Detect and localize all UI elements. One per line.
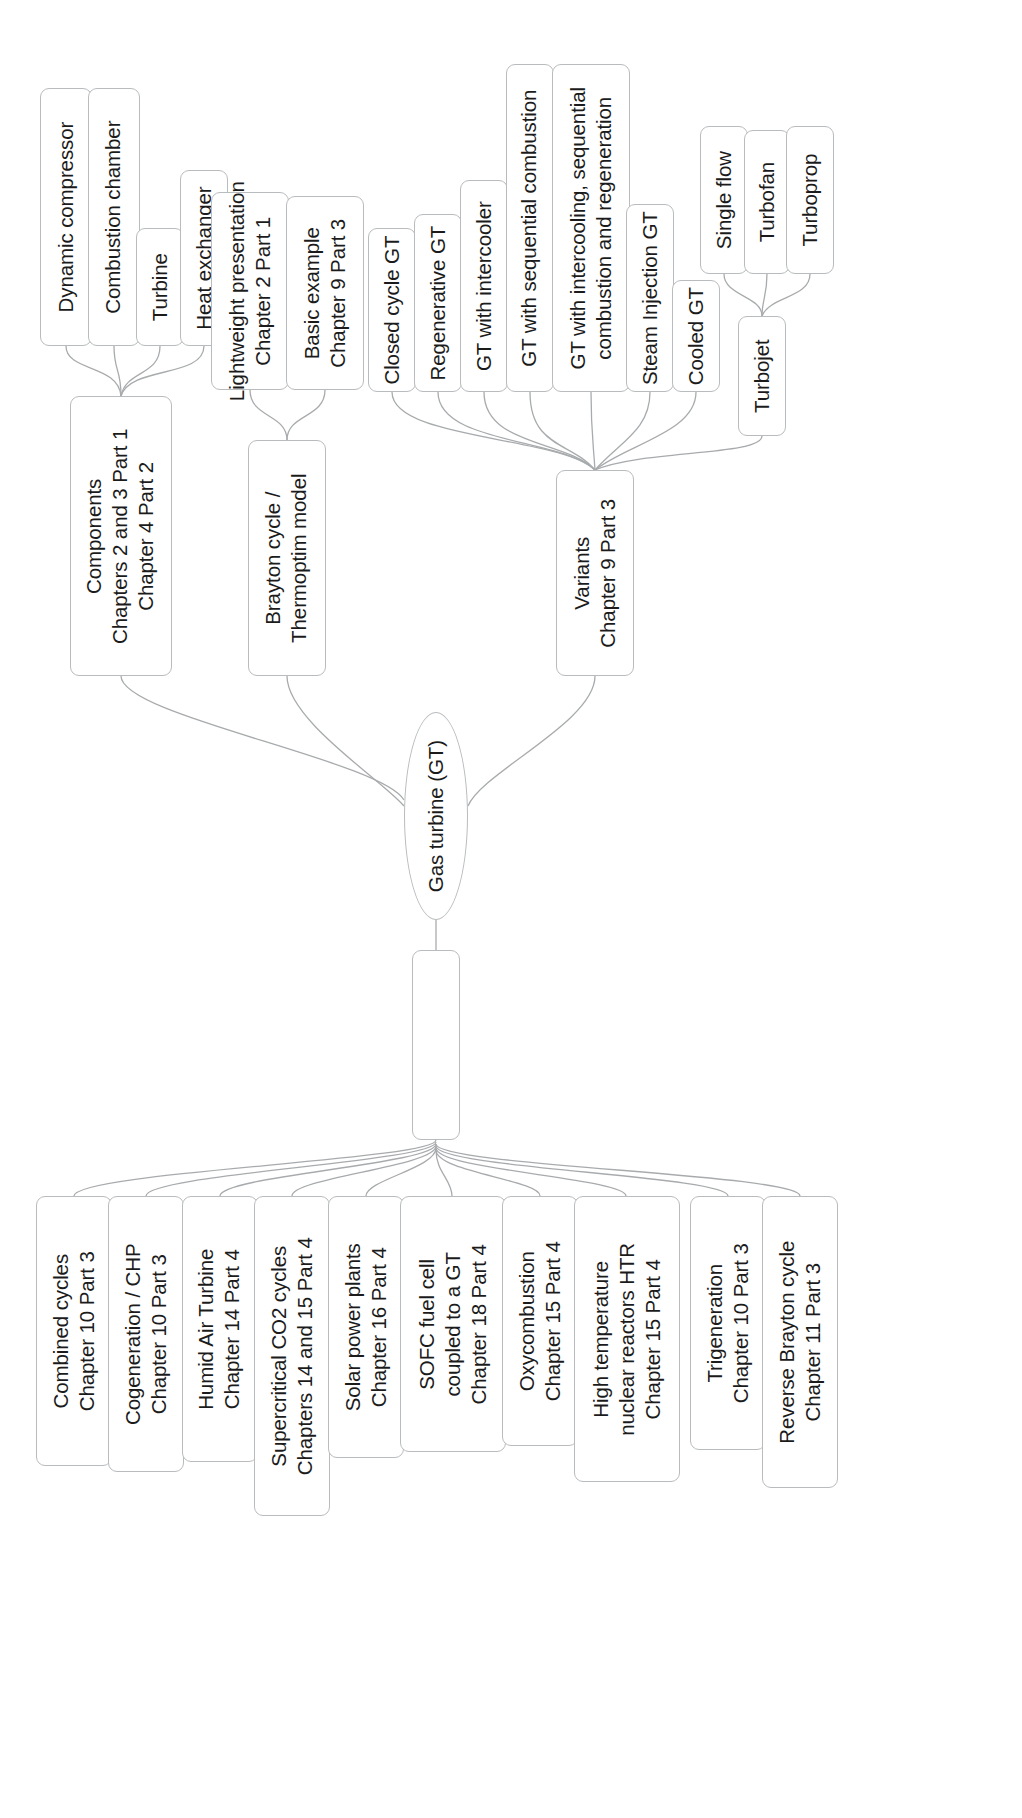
node-gt-with-intercooling-sequential-combustion-regeneration[interactable]: GT with intercooling, sequentialcombusti… <box>552 64 630 392</box>
edge-connector <box>287 676 404 806</box>
node-lightweight-presentation-label: Lightweight presentationChapter 2 Part 1 <box>224 181 276 401</box>
edge-connector <box>724 274 762 316</box>
edge-connector <box>292 1146 436 1196</box>
edge-connector <box>530 392 595 470</box>
node-sofc-fuel-cell[interactable]: SOFC fuel cellcoupled to a GTChapter 18 … <box>400 1196 506 1452</box>
node-variants-label: VariantsChapter 9 Part 3 <box>569 499 621 648</box>
node-components-label: ComponentsChapters 2 and 3 Part 1Chapter… <box>82 428 161 643</box>
node-sofc-fuel-cell-label: SOFC fuel cellcoupled to a GTChapter 18 … <box>414 1244 493 1404</box>
node-supercritical-co2-cycles[interactable]: Supercritical CO2 cyclesChapters 14 and … <box>254 1196 330 1516</box>
edge-connector <box>595 392 650 470</box>
edge-connector <box>762 274 767 316</box>
node-advanced-cycles[interactable] <box>412 950 460 1140</box>
node-regenerative-gt[interactable]: Regenerative GT <box>414 214 462 392</box>
node-reverse-brayton-cycle-label: Reverse Brayton cycleChapter 11 Part 3 <box>774 1241 826 1444</box>
edge-connector <box>121 676 404 800</box>
edge-connector <box>468 676 595 806</box>
node-brayton-cycle-label: Brayton cycle /Thermoptim model <box>261 473 313 642</box>
edge-connector <box>595 436 762 470</box>
node-dynamic-compressor[interactable]: Dynamic compressor <box>40 88 92 346</box>
node-turbojet-label: Turbojet <box>749 339 775 413</box>
node-oxycombustion-label: OxycombustionChapter 15 Part 4 <box>514 1241 566 1401</box>
node-oxycombustion[interactable]: OxycombustionChapter 15 Part 4 <box>502 1196 578 1446</box>
node-gt-with-sequential-combustion-label: GT with sequential combustion <box>517 89 543 366</box>
node-components[interactable]: ComponentsChapters 2 and 3 Part 1Chapter… <box>70 396 172 676</box>
node-root-gas-turbine-label: Gas turbine (GT) <box>423 740 449 892</box>
edge-connector <box>436 1144 800 1196</box>
node-root-gas-turbine[interactable]: Gas turbine (GT) <box>404 712 468 920</box>
node-turboprop[interactable]: Turboprop <box>786 126 834 274</box>
node-variants[interactable]: VariantsChapter 9 Part 3 <box>556 470 634 676</box>
edge-connector <box>146 1142 436 1196</box>
node-trigeneration-label: TrigenerationChapter 10 Part 3 <box>702 1243 754 1403</box>
node-reverse-brayton-cycle[interactable]: Reverse Brayton cycleChapter 11 Part 3 <box>762 1196 838 1488</box>
edge-connector <box>436 1148 626 1196</box>
edge-connector <box>366 1148 436 1196</box>
edge-connector <box>114 346 121 396</box>
node-regenerative-gt-label: Regenerative GT <box>425 226 451 381</box>
edge-connector <box>591 392 595 470</box>
edge-connector <box>287 390 325 440</box>
edge-connector <box>595 392 696 470</box>
node-turbine-label: Turbine <box>147 253 173 321</box>
node-closed-cycle-gt-label: Closed cycle GT <box>379 236 405 385</box>
node-cogeneration-chp[interactable]: Cogeneration / CHPChapter 10 Part 3 <box>108 1196 184 1472</box>
node-turbofan[interactable]: Turbofan <box>744 130 790 274</box>
node-brayton-cycle[interactable]: Brayton cycle /Thermoptim model <box>248 440 326 676</box>
node-turbofan-label: Turbofan <box>754 162 780 243</box>
node-steam-injection-gt[interactable]: Steam Injection GT <box>626 204 674 392</box>
node-basic-example[interactable]: Basic exampleChapter 9 Part 3 <box>286 196 364 390</box>
edge-connector <box>392 392 595 470</box>
node-trigeneration[interactable]: TrigenerationChapter 10 Part 3 <box>690 1196 766 1450</box>
node-turboprop-label: Turboprop <box>797 154 823 247</box>
edge-connector <box>121 346 160 396</box>
node-gt-with-intercooler-label: GT with intercooler <box>471 201 497 371</box>
node-solar-power-plants[interactable]: Solar power plantsChapter 16 Part 4 <box>328 1196 404 1458</box>
node-combined-cycles-label: Combined cyclesChapter 10 Part 3 <box>48 1251 100 1411</box>
edge-connector <box>74 1140 436 1196</box>
node-single-flow-label: Single flow <box>711 151 737 249</box>
node-lightweight-presentation[interactable]: Lightweight presentationChapter 2 Part 1 <box>211 192 289 390</box>
node-solar-power-plants-label: Solar power plantsChapter 16 Part 4 <box>340 1243 392 1411</box>
node-gt-with-intercooler[interactable]: GT with intercooler <box>460 180 508 392</box>
node-humid-air-turbine-label: Humid Air TurbineChapter 14 Part 4 <box>194 1248 246 1409</box>
node-turbine[interactable]: Turbine <box>136 228 184 346</box>
node-steam-injection-gt-label: Steam Injection GT <box>637 211 663 385</box>
node-combustion-chamber[interactable]: Combustion chamber <box>88 88 140 346</box>
node-cogeneration-chp-label: Cogeneration / CHPChapter 10 Part 3 <box>120 1243 172 1425</box>
node-supercritical-co2-cycles-label: Supercritical CO2 cyclesChapters 14 and … <box>266 1237 318 1475</box>
node-combined-cycles[interactable]: Combined cyclesChapter 10 Part 3 <box>36 1196 112 1466</box>
edge-connector <box>438 392 595 470</box>
edge-connector <box>484 392 595 470</box>
edge-connector <box>220 1144 436 1196</box>
node-cooled-gt-label: Cooled GT <box>683 287 709 385</box>
mindmap-canvas: Dynamic compressorCombustion chamberTurb… <box>0 0 1022 1818</box>
node-single-flow[interactable]: Single flow <box>700 126 748 274</box>
edge-connector <box>436 1150 452 1196</box>
node-basic-example-label: Basic exampleChapter 9 Part 3 <box>299 219 351 368</box>
node-turbojet[interactable]: Turbojet <box>738 316 786 436</box>
edge-connector <box>762 274 810 316</box>
node-dynamic-compressor-label: Dynamic compressor <box>53 122 79 313</box>
node-closed-cycle-gt[interactable]: Closed cycle GT <box>368 228 416 392</box>
node-gt-with-sequential-combustion[interactable]: GT with sequential combustion <box>506 64 554 392</box>
node-cooled-gt[interactable]: Cooled GT <box>672 280 720 392</box>
edge-connector <box>66 346 121 396</box>
edge-connector <box>121 346 204 396</box>
node-gt-with-intercooling-sequential-combustion-regeneration-label: GT with intercooling, sequentialcombusti… <box>565 87 617 369</box>
edge-connector <box>436 1146 728 1196</box>
node-combustion-chamber-label: Combustion chamber <box>101 120 127 313</box>
node-high-temperature-nuclear-reactors-label: High temperaturenuclear reactors HTRChap… <box>588 1243 667 1436</box>
node-humid-air-turbine[interactable]: Humid Air TurbineChapter 14 Part 4 <box>182 1196 258 1462</box>
edge-connector <box>436 1150 540 1196</box>
node-high-temperature-nuclear-reactors[interactable]: High temperaturenuclear reactors HTRChap… <box>574 1196 680 1482</box>
